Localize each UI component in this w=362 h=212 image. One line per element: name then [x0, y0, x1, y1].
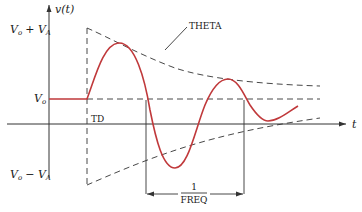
- lower-envelope: [87, 118, 320, 185]
- theta-label: THETA: [189, 21, 222, 31]
- svg-text:Vo+ VA: Vo+ VA: [10, 23, 51, 37]
- x-axis-label: t: [352, 118, 357, 131]
- theta-leader-line: [165, 27, 187, 50]
- svg-text:1: 1: [191, 182, 197, 192]
- label-vo-minus-va: Vo− VA: [10, 168, 51, 182]
- damped-sine-diagram: v(t) t Vo+ VA Vo Vo− VA TD THETA 1 FREQ: [0, 0, 362, 212]
- period-label: 1 FREQ: [181, 182, 208, 205]
- label-vo-plus-va: Vo+ VA: [10, 23, 51, 37]
- svg-text:Vo− VA: Vo− VA: [10, 168, 51, 182]
- svg-text:Vo: Vo: [34, 92, 46, 106]
- label-vo: Vo: [34, 92, 46, 106]
- y-axis-label: v(t): [55, 3, 74, 16]
- svg-text:FREQ: FREQ: [181, 195, 208, 205]
- upper-envelope: [87, 28, 320, 86]
- damped-sine-waveform: [49, 43, 298, 168]
- td-label: TD: [91, 114, 104, 124]
